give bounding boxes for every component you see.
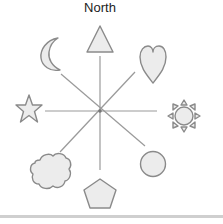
star-icon (16, 95, 42, 122)
heart-icon (140, 46, 166, 83)
triangle-icon (87, 26, 113, 52)
compass-spokes (45, 56, 157, 170)
moon-icon (41, 38, 60, 70)
spoke-northwest-southeast (61, 74, 145, 146)
center-point (98, 109, 102, 113)
pentagon-icon (84, 179, 116, 208)
bottom-divider (0, 215, 223, 218)
sun-icon (168, 100, 200, 132)
circle-icon (141, 152, 166, 177)
spoke-northeast-southwest (60, 72, 135, 152)
cloud-icon (31, 154, 71, 189)
compass-diagram (0, 0, 223, 224)
